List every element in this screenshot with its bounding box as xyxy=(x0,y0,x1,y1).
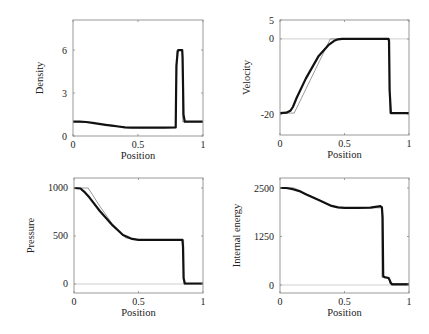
y-tick-label: 500 xyxy=(53,230,68,241)
x-tick-label: 0.5 xyxy=(132,296,145,307)
y-axis-label: Pressure xyxy=(25,217,36,253)
x-axis-label: Position xyxy=(121,150,156,161)
y-tick-label: 3 xyxy=(62,88,67,99)
x-axis-label: Position xyxy=(327,307,362,318)
y-tick-label: 1250 xyxy=(254,231,274,242)
y-axis-label: Velocity xyxy=(241,59,252,95)
y-tick-label: 2500 xyxy=(254,183,274,194)
x-tick-label: 0.5 xyxy=(132,139,145,150)
x-axis-label: Position xyxy=(121,307,156,318)
pressure-panel: 0500100000.51PositionPressure xyxy=(25,178,206,318)
figure: 03600.51PositionDensity -200500.51Positi… xyxy=(0,0,429,334)
y-tick-label: 0 xyxy=(63,278,68,289)
density-numerical-line xyxy=(73,50,203,128)
x-tick-label: 0 xyxy=(72,296,77,307)
internal-energy-exact-line xyxy=(280,188,409,284)
pressure-numerical-line xyxy=(74,188,203,284)
x-tick-label: 1 xyxy=(201,296,206,307)
y-tick-label: 0 xyxy=(269,280,274,291)
x-tick-label: 1 xyxy=(201,139,206,150)
internal-energy-axes-frame xyxy=(280,178,409,293)
internal-energy-panel: 01250250000.51PositionInternal energy xyxy=(231,178,412,318)
x-tick-label: 0.5 xyxy=(338,296,351,307)
y-axis-label: Internal energy xyxy=(231,203,242,267)
x-tick-label: 0 xyxy=(278,138,283,149)
x-tick-label: 1 xyxy=(407,296,412,307)
y-tick-label: 5 xyxy=(269,15,274,26)
y-tick-label: 1000 xyxy=(48,182,68,193)
density-panel: 03600.51PositionDensity xyxy=(34,20,206,161)
x-tick-label: 0 xyxy=(71,139,76,150)
y-tick-label: -20 xyxy=(261,109,274,120)
y-tick-label: 0 xyxy=(269,33,274,44)
y-tick-label: 6 xyxy=(62,45,67,56)
y-axis-label: Density xyxy=(34,61,45,94)
x-axis-label: Position xyxy=(327,149,362,160)
internal-energy-numerical-line xyxy=(280,188,409,284)
x-tick-label: 0.5 xyxy=(338,138,351,149)
x-tick-label: 0 xyxy=(278,296,283,307)
y-tick-label: 0 xyxy=(62,131,67,142)
velocity-panel: -200500.51PositionVelocity xyxy=(241,15,412,161)
x-tick-label: 1 xyxy=(407,138,412,149)
